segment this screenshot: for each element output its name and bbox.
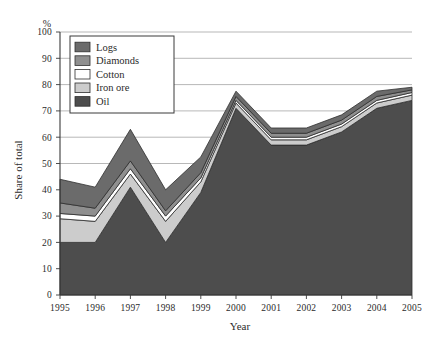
legend-swatch-oil (75, 97, 90, 107)
x-tick-label: 2005 (402, 303, 422, 313)
chart-svg: % Share of total Year 010203040506070809… (0, 0, 436, 337)
y-tick-label: 10 (42, 264, 52, 274)
y-tick-label: 20 (42, 238, 52, 248)
legend-label-oil: Oil (96, 96, 110, 107)
x-tick-label: 1996 (85, 303, 105, 313)
y-tick-label: 50 (42, 159, 52, 169)
x-tick-label: 2003 (332, 303, 352, 313)
legend-swatch-iron-ore (75, 83, 90, 93)
y-tick-label: 30 (42, 211, 52, 221)
y-tick-label: 0 (47, 290, 52, 300)
x-tick-label: 1995 (50, 303, 70, 313)
x-tick-label: 2001 (261, 303, 281, 313)
stacked-area-chart: % Share of total Year 010203040506070809… (0, 0, 436, 337)
y-tick-label: 90 (42, 54, 52, 64)
y-tick-label: 70 (42, 106, 52, 116)
chart-legend: LogsDiamondsCottonIron oreOil (70, 36, 174, 113)
x-axis-title: Year (230, 320, 251, 332)
legend-swatch-cotton (75, 69, 90, 79)
x-tick-label: 2002 (296, 303, 316, 313)
y-tick-label: 40 (42, 185, 52, 195)
y-tick-label: 60 (42, 133, 52, 143)
x-tick-label: 1999 (191, 303, 211, 313)
legend-swatch-logs (75, 42, 90, 52)
x-tick-label: 2004 (367, 303, 387, 313)
legend-label-diamonds: Diamonds (96, 55, 139, 66)
y-tick-label: 100 (37, 27, 52, 37)
y-axis-title: Share of total (12, 140, 24, 199)
legend-label-logs: Logs (96, 42, 117, 53)
legend-label-iron-ore: Iron ore (96, 82, 130, 93)
x-tick-label: 1997 (120, 303, 140, 313)
legend-swatch-diamonds (75, 56, 90, 66)
legend-label-cotton: Cotton (96, 69, 125, 80)
x-tick-label: 2000 (226, 303, 246, 313)
x-tick-label: 1998 (156, 303, 176, 313)
y-tick-label: 80 (42, 80, 52, 90)
